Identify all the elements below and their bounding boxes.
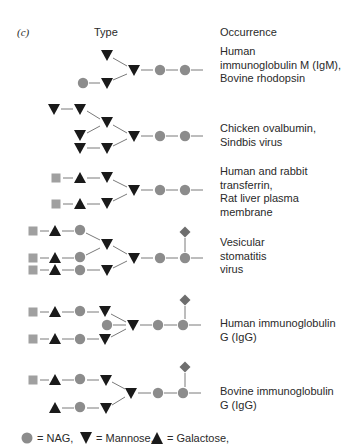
legend-nag-label: = NAG, [37,431,73,445]
occurrence-row-4: Vesicular stomatitis virus [220,236,266,277]
glycan-row-6 [29,362,191,415]
panel-label: (c) [17,25,29,39]
occurrence-row-6: Bovine immunoglobulin G (IgG) [220,385,334,412]
legend: = NAG, = Mannose, = Galactose, [0,430,351,448]
type-header: Type [94,25,118,39]
legend-mannose-label: = Mannose, [96,431,154,445]
legend-galactose-label: = Galactose, [167,431,229,445]
occurrence-row-5: Human immunoglobulin G (IgG) [220,317,336,344]
occurrence-row-2: Chicken ovalbumin, Sindbis virus [220,122,316,149]
occurrence-row-1: Human immunoglobulin M (IgM), Bovine rho… [220,45,341,86]
glycan-row-4 [29,225,191,276]
occurrence-header: Occurrence [220,25,277,39]
glycan-row-5 [29,295,191,346]
occurrence-row-3: Human and rabbit transferrin, Rat liver … [220,165,307,219]
